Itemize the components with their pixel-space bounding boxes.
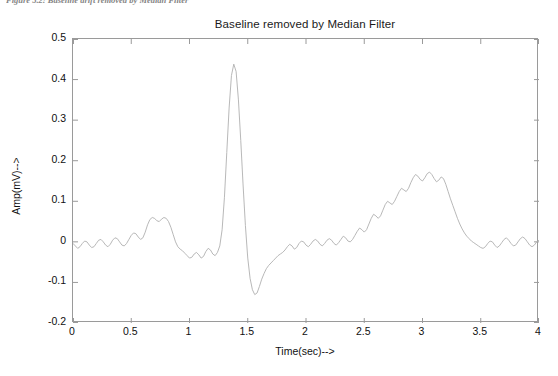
signal-plot-svg: [73, 39, 539, 323]
y-tick-text: 0: [60, 234, 66, 246]
y-tick-text: -0.1: [48, 274, 66, 286]
x-tick-label: 0.5: [123, 325, 138, 337]
x-tick-label: 0: [69, 325, 75, 337]
y-axis-label: Amp(mV)-->: [10, 136, 22, 236]
x-tick-label: 2: [302, 325, 308, 337]
x-tick-label: 1: [186, 325, 192, 337]
x-tick-label: 4: [535, 325, 541, 337]
chart-title: Baseline removed by Median Filter: [72, 18, 538, 30]
y-tick-text: 0.3: [51, 112, 66, 124]
x-axis-ticks: [74, 39, 539, 323]
y-tick-text: 0.2: [51, 153, 66, 165]
figure-page: Figure 5.2: Baseline drift removed by Me…: [0, 0, 558, 376]
x-tick-label: 3.5: [472, 325, 487, 337]
matlab-figure: Baseline removed by Median Filter 0.50.4…: [0, 0, 558, 376]
y-tick-text: 0.1: [51, 193, 66, 205]
x-tick-label: 1.5: [239, 325, 254, 337]
x-axis-label: Time(sec)-->: [72, 345, 538, 357]
y-tick-text: 0.5: [51, 31, 66, 43]
y-axis-ticks: [73, 40, 539, 323]
plot-area: [72, 38, 538, 322]
x-tick-label: 3: [419, 325, 425, 337]
y-tick-text: -0.2: [48, 315, 66, 327]
y-tick-text: 0.4: [51, 72, 66, 84]
x-tick-label: 2.5: [356, 325, 371, 337]
ecg-signal-trace: [73, 64, 539, 294]
